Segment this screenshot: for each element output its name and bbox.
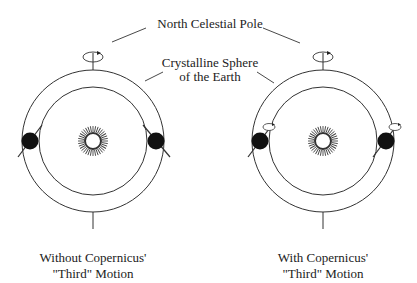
north-celestial-pole-label: North Celestial Pole <box>157 16 263 31</box>
crystalline-sphere-label-line1: Crystalline Sphere <box>162 55 259 70</box>
earth-left-spinning <box>248 123 275 157</box>
panel-without-third-motion: Without Copernicus' "Third" Motion <box>18 51 170 281</box>
caption-without-line2: "Third" Motion <box>52 266 134 281</box>
crystalline-sphere-label-line2: of the Earth <box>179 69 241 84</box>
caption-without-line1: Without Copernicus' <box>40 250 147 265</box>
spin-arrow-icon <box>263 123 275 131</box>
pole-leader-left <box>112 28 146 42</box>
sun-icon <box>78 126 108 156</box>
panel-with-third-motion: With Copernicus' "Third" Motion <box>248 51 401 281</box>
spin-arrow-icon <box>389 123 401 131</box>
caption-with-line1: With Copernicus' <box>278 250 368 265</box>
earth-left <box>18 125 42 157</box>
sun-icon <box>308 126 338 156</box>
caption-with-line2: "Third" Motion <box>282 266 364 281</box>
sphere-leader-right <box>257 72 274 83</box>
copernicus-third-motion-diagram: North Celestial Pole Crystalline Sphere … <box>0 0 417 283</box>
pole-leader-right <box>263 28 300 43</box>
sphere-leader-left <box>145 72 163 81</box>
